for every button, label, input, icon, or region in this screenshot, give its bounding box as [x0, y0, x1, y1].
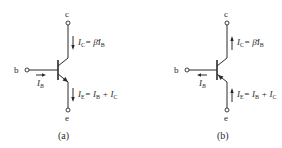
emitter-label-a: e: [65, 113, 69, 123]
ib-label-b: IB: [198, 78, 206, 89]
base-label-b: b: [174, 65, 179, 75]
ib-arrow-left-icon-b: [197, 73, 201, 76]
caption-b: (b): [217, 130, 229, 142]
base-terminal-a: [25, 68, 29, 72]
emitter-label-b: e: [224, 113, 228, 123]
emitter-terminal-a: [66, 108, 70, 112]
caption-a: (a): [58, 130, 69, 142]
circuit-a-npn: c b e IB IC= β̄IB IE= IB + IC (a): [14, 9, 118, 142]
ic-equation-b: IC= β̄IB: [236, 37, 264, 48]
ib-label-a: IB: [36, 78, 44, 89]
collector-label-b: c: [224, 9, 228, 19]
ic-arrow-down-icon-a: [71, 45, 74, 50]
circuit-b-pnp: c b e IB IC= β̄IB IE= IB + IC (b): [174, 9, 277, 142]
collector-diagonal-a: [58, 58, 68, 66]
base-label-a: b: [14, 65, 19, 75]
ie-equation-b: IE= IB + IC: [236, 89, 277, 100]
ic-arrow-up-icon-b: [230, 36, 233, 41]
emitter-terminal-b: [225, 108, 229, 112]
collector-label-a: c: [65, 9, 69, 19]
emitter-arrow-icon-b: [218, 75, 224, 80]
bjt-diagram: c b e IB IC= β̄IB IE= IB + IC (a) c: [0, 0, 282, 148]
ie-arrow-up-icon-b: [230, 88, 233, 93]
ib-arrow-right-icon-a: [42, 73, 46, 76]
ie-equation-a: IE= IB + IC: [77, 89, 118, 100]
collector-terminal-b: [225, 21, 229, 25]
base-terminal-b: [185, 68, 189, 72]
collector-terminal-a: [66, 21, 70, 25]
ie-arrow-down-icon-a: [71, 97, 74, 102]
collector-diagonal-b: [217, 58, 227, 66]
ic-equation-a: IC= β̄IB: [77, 37, 105, 48]
